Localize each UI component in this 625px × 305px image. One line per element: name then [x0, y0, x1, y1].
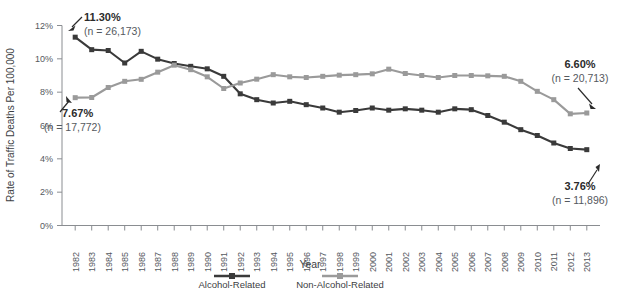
data-point-marker [337, 110, 342, 115]
data-point-marker [403, 71, 408, 76]
x-tick-label: 1993 [252, 252, 262, 272]
x-tick-label: 1998 [335, 252, 345, 272]
x-tick-label: 1999 [351, 252, 361, 272]
data-point-marker [155, 70, 160, 75]
y-tick-label: 8% [40, 87, 53, 97]
data-point-marker [518, 79, 523, 84]
data-point-marker [353, 72, 358, 77]
data-point-marker [73, 35, 78, 40]
data-point-marker [238, 81, 243, 86]
series-non-alcohol-related [73, 63, 590, 117]
x-tick-label: 2005 [450, 252, 460, 272]
x-tick-label: 1995 [285, 252, 295, 272]
data-point-marker [139, 49, 144, 54]
annotation-value: 3.76% [564, 180, 595, 192]
data-point-marker [452, 106, 457, 111]
data-point-marker [205, 66, 210, 71]
data-point-marker [155, 57, 160, 62]
annotation-value: 11.30% [84, 11, 121, 23]
x-tick-label: 1984 [104, 252, 114, 272]
data-point-marker [172, 63, 177, 68]
data-point-marker [89, 47, 94, 52]
y-tick-label: 2% [40, 187, 53, 197]
x-tick-label: 1988 [170, 252, 180, 272]
annotation-leader-line [578, 88, 592, 104]
data-point-marker [469, 73, 474, 78]
data-point-marker [139, 77, 144, 82]
annotation-arrowhead [68, 26, 76, 32]
data-point-marker [485, 113, 490, 118]
data-point-marker [304, 75, 309, 80]
data-point-marker [188, 67, 193, 72]
data-point-marker [452, 73, 457, 78]
legend-label: Non-Alcohol-Related [296, 279, 384, 290]
data-point-marker [403, 106, 408, 111]
data-point-marker [271, 101, 276, 106]
data-point-marker [419, 108, 424, 113]
data-point-marker [287, 74, 292, 79]
legend-item-non-alcohol-related[interactable]: Non-Alcohol-Related [296, 273, 384, 290]
data-point-marker [568, 146, 573, 151]
y-tick-label: 4% [40, 154, 53, 164]
data-point-marker [205, 74, 210, 79]
data-point-marker [551, 141, 556, 146]
legend-item-alcohol-related[interactable]: Alcohol-Related [198, 273, 265, 290]
annotation-start-non-alcohol: 7.67% (n = 17,772) [44, 96, 101, 133]
data-point-marker [584, 111, 589, 116]
x-tick-label: 2012 [566, 252, 576, 272]
x-tick-label: 2003 [417, 252, 427, 272]
data-point-marker [535, 89, 540, 94]
data-point-marker [320, 74, 325, 79]
data-point-marker [106, 85, 111, 90]
x-tick-label: 2007 [483, 252, 493, 272]
x-tick-label: 1987 [153, 252, 163, 272]
annotation-end-alcohol: 3.76% (n = 11,896) [552, 164, 608, 206]
x-tick-label: 2013 [582, 252, 592, 272]
annotation-count: (n = 11,896) [552, 194, 608, 206]
data-point-marker [568, 111, 573, 116]
x-tick-label: 2009 [516, 252, 526, 272]
annotation-arrowhead [589, 104, 596, 110]
annotation-value: 6.60% [564, 58, 595, 70]
data-point-marker [122, 79, 127, 84]
data-point-marker [238, 91, 243, 96]
series-line [75, 37, 587, 150]
data-point-marker [304, 102, 309, 107]
data-point-marker [436, 110, 441, 115]
x-tick-label: 2000 [368, 252, 378, 272]
data-series-group [73, 35, 590, 153]
x-tick-label: 2011 [549, 252, 559, 271]
data-point-marker [386, 67, 391, 72]
data-point-marker [337, 73, 342, 78]
data-point-marker [535, 133, 540, 138]
chart-legend: Alcohol-RelatedNon-Alcohol-Related [198, 273, 383, 290]
x-tick-label: 2006 [467, 252, 477, 272]
y-tick-label: 12% [35, 21, 53, 31]
annotation-count: (n = 17,772) [44, 121, 101, 133]
annotation-end-non-alcohol: 6.60% (n = 20,713) [552, 58, 609, 109]
data-point-marker [386, 108, 391, 113]
x-axis: 1982198319841985198619871988198919901991… [71, 226, 593, 273]
annotation-count: (n = 26,173) [84, 25, 141, 37]
y-tick-label: 10% [35, 54, 53, 64]
data-point-marker [89, 95, 94, 100]
x-tick-label: 1983 [87, 252, 97, 272]
annotation-arrowhead [66, 96, 72, 103]
data-point-marker [502, 74, 507, 79]
series-line [75, 65, 587, 114]
x-tick-label: 1989 [186, 252, 196, 272]
data-point-marker [370, 71, 375, 76]
data-point-marker [73, 95, 78, 100]
data-point-marker [254, 97, 259, 102]
data-point-marker [287, 99, 292, 104]
x-tick-label: 1990 [203, 252, 213, 272]
data-point-marker [584, 147, 589, 152]
annotation-count: (n = 20,713) [552, 72, 609, 84]
data-point-marker [320, 106, 325, 111]
y-tick-label: 0% [40, 221, 53, 231]
data-point-marker [353, 108, 358, 113]
data-point-marker [254, 77, 259, 82]
data-point-marker [122, 61, 127, 66]
x-tick-label: 1986 [137, 252, 147, 272]
data-point-marker [485, 73, 490, 78]
